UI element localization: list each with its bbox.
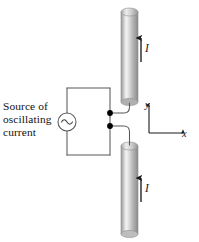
current-label-lower: I (145, 182, 149, 194)
feed-wires (110, 103, 130, 145)
lower-antenna-rod (121, 142, 138, 238)
terminal-dot-lower (107, 123, 113, 129)
y-axis-label: y (145, 99, 150, 110)
source-label: Source of oscillating current (3, 100, 61, 140)
source-label-line-2: oscillating (3, 113, 61, 126)
source-label-line-1: Source of (3, 100, 61, 113)
terminal-dot-upper (107, 110, 113, 116)
upper-antenna-rod (121, 8, 138, 106)
current-label-upper: I (145, 42, 149, 54)
x-axis-label: x (182, 128, 187, 139)
source-label-line-3: current (3, 126, 61, 139)
coordinate-axes (149, 105, 183, 133)
antenna-diagram: Source of oscillating current I I y x (0, 0, 199, 242)
